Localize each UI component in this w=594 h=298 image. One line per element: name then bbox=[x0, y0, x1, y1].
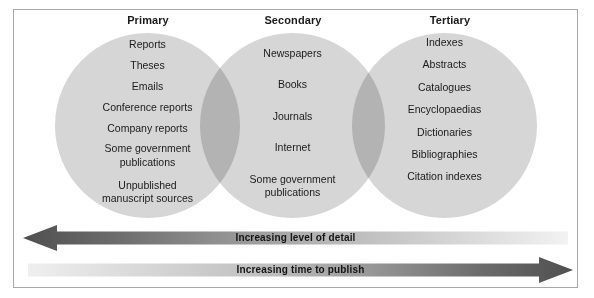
column-header-tertiary: Tertiary bbox=[380, 14, 520, 26]
arrow-increasing-level-of-detail: Increasing level of detail bbox=[23, 225, 568, 251]
left-arrow-icon bbox=[23, 225, 568, 251]
list-item: Journals bbox=[205, 110, 380, 122]
venn-diagram-figure: Primary Secondary Tertiary Reports These… bbox=[0, 0, 594, 298]
list-item: Some government publications bbox=[205, 173, 380, 200]
list-item: Dictionaries bbox=[357, 126, 532, 138]
list-item: Bibliographies bbox=[357, 148, 532, 160]
list-item: Abstracts bbox=[357, 58, 532, 70]
column-header-secondary: Secondary bbox=[223, 14, 363, 26]
list-item: Encyclopaedias bbox=[357, 103, 532, 115]
column-header-primary: Primary bbox=[78, 14, 218, 26]
arrow-increasing-time-to-publish: Increasing time to publish bbox=[28, 257, 573, 283]
list-item: Indexes bbox=[357, 36, 532, 48]
list-item: Books bbox=[205, 78, 380, 90]
list-item: Catalogues bbox=[357, 81, 532, 93]
list-item: Newspapers bbox=[205, 47, 380, 59]
item-list-tertiary: Indexes Abstracts Catalogues Encyclopaed… bbox=[357, 36, 532, 193]
list-item: Citation indexes bbox=[357, 170, 532, 182]
right-arrow-icon bbox=[28, 257, 573, 283]
item-list-secondary: Newspapers Books Journals Internet Some … bbox=[205, 47, 380, 200]
list-item: Internet bbox=[205, 141, 380, 153]
